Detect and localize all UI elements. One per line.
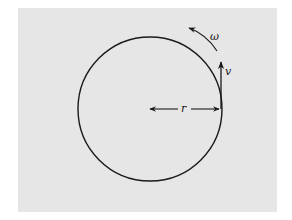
velocity-label: v xyxy=(225,65,232,78)
circular-motion-diagram: ω v r xyxy=(0,0,292,220)
omega-label: ω xyxy=(210,30,219,43)
diagram-canvas: ω v r xyxy=(0,0,292,220)
radius-label: r xyxy=(181,102,187,115)
